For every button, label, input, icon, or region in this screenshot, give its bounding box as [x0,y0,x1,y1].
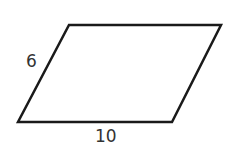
base-length-label: 10 [95,128,117,145]
parallelogram-shape [18,25,221,122]
parallelogram-diagram [0,0,242,146]
side-length-label: 6 [26,53,37,70]
